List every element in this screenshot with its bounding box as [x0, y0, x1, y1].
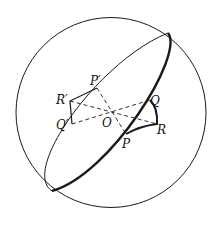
- label-p-prime: P′: [89, 74, 101, 88]
- label-q: Q: [150, 94, 160, 108]
- great-circle-back: [45, 33, 168, 191]
- sphere-diagram: P′ R′ Q′ O Q R P: [0, 0, 219, 226]
- label-r-prime: R′: [55, 93, 68, 107]
- label-q-prime: Q′: [56, 118, 69, 132]
- label-p: P: [121, 137, 131, 151]
- label-o: O: [102, 116, 112, 130]
- label-r: R: [156, 123, 166, 137]
- triangle-pqr-prime: [70, 88, 97, 124]
